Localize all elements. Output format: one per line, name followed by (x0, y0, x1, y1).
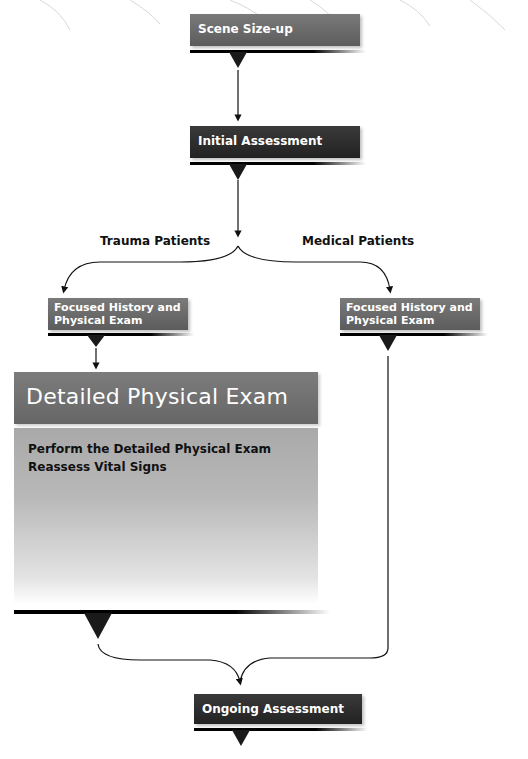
pointer-triangle-icon (229, 52, 247, 68)
node-scene-sizeup: Scene Size-up (190, 14, 360, 46)
node-detailed-physical-exam-header: Detailed Physical Exam (14, 372, 318, 424)
pointer-triangle-icon (84, 613, 112, 639)
node-label-line2: Physical Exam (340, 314, 480, 327)
node-ongoing-assessment: Ongoing Assessment (194, 694, 362, 724)
pointer-triangle-icon (229, 164, 247, 180)
exam-step: Perform the Detailed Physical Exam (28, 442, 271, 456)
branch-label-medical: Medical Patients (302, 234, 414, 248)
node-label: Scene Size-up (190, 14, 360, 36)
pointer-triangle-icon (232, 730, 250, 746)
accent-bar (190, 50, 366, 53)
node-label: Ongoing Assessment (194, 694, 362, 716)
pointer-triangle-icon (87, 335, 105, 347)
accent-bar (14, 610, 330, 614)
node-focused-history-trauma: Focused History and Physical Exam (48, 298, 188, 330)
accent-bar (340, 333, 488, 336)
exam-step: Reassess Vital Signs (28, 460, 167, 474)
accent-bar (194, 728, 368, 731)
node-focused-history-medical: Focused History and Physical Exam (340, 298, 480, 330)
node-label: Initial Assessment (190, 126, 360, 148)
accent-bar (190, 162, 366, 165)
node-initial-assessment: Initial Assessment (190, 126, 360, 158)
pointer-triangle-icon (379, 335, 397, 351)
node-label-line2: Physical Exam (48, 314, 188, 327)
node-title: Detailed Physical Exam (26, 384, 288, 409)
node-detailed-physical-exam-body: Perform the Detailed Physical Exam Reass… (14, 428, 318, 604)
accent-bar (48, 333, 194, 336)
node-label-line1: Focused History and (48, 298, 188, 314)
branch-label-trauma: Trauma Patients (100, 234, 210, 248)
node-label-line1: Focused History and (340, 298, 480, 314)
